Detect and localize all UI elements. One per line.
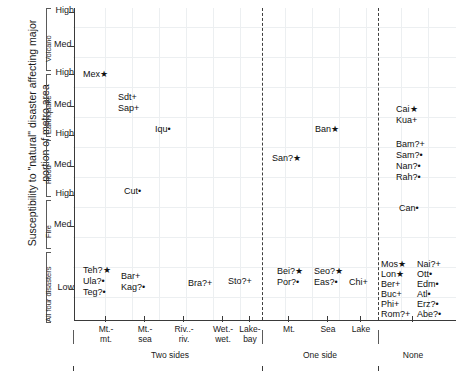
data-point-lon[interactable]: Lon★ [381,269,404,280]
y-group-bracket-all-four-top [46,252,51,253]
x-tick-mark [412,316,413,322]
x-tick-line1: Riv..- [174,324,193,334]
y-tick-mark [69,46,75,47]
data-point-seo[interactable]: Seo?★ [314,266,343,277]
x-tick-mark [249,316,250,322]
data-point-mos[interactable]: Mos★ [381,259,406,270]
data-point-can[interactable]: Can• [399,203,419,214]
y-tick-mark [69,12,75,13]
x-group-label-one-side: One side [280,350,360,360]
x-group-bracket-two-sides-right [262,330,263,344]
data-point-cut[interactable]: Cut• [124,186,141,197]
data-point-phi[interactable]: Phi+ [381,299,399,310]
x-group-label-none: None [378,350,448,360]
x-tick-mark [144,316,145,322]
gridline-v [159,8,160,320]
x-group-bracket-one-side-right [378,330,379,344]
data-point-bra[interactable]: Bra?+ [188,278,212,289]
data-point-edm[interactable]: Edm• [417,279,439,290]
y-tick-mark [69,166,75,167]
data-point-teh[interactable]: Teh?★ [83,265,111,276]
y-tick-label-0: High [34,5,74,15]
data-point-ban[interactable]: Ban★ [315,124,339,135]
y-tick-mark [69,289,75,290]
x-tick-mark [222,316,223,322]
x-tick-line1: Mt.- [99,324,114,334]
x-tick-mark [288,316,289,322]
y-tick-label-4: High [34,128,74,138]
scatter-chart: Susceptibility to "natural" disaster aff… [0,0,456,376]
gridline-v [186,8,187,320]
data-point-abe[interactable]: Abe?• [417,309,441,320]
x-tick-line2: mt. [100,334,112,344]
data-point-rom[interactable]: Rom?+ [381,309,410,320]
data-point-ott[interactable]: Ott• [417,269,432,280]
data-point-iqu[interactable]: Iqu• [155,124,171,135]
data-point-bam[interactable]: Bam?+ [396,139,425,150]
x-axis-line [74,320,456,321]
data-point-atl[interactable]: Atl• [417,289,431,300]
data-point-buc[interactable]: Buc+ [381,289,402,300]
x-tick-mark [105,316,106,322]
y-tick-mark [69,226,75,227]
data-point-mex[interactable]: Mex★ [83,69,108,80]
y-tick-label-2: High [34,67,74,77]
data-point-rah[interactable]: Rah?• [396,172,421,183]
data-point-chi[interactable]: Chi+ [349,277,368,288]
y-group-bracket-fire-bot [46,248,51,249]
data-point-ber[interactable]: Ber+ [381,279,400,290]
gridline-v [213,8,214,320]
y-group-label-all-four: All four disasters [44,267,53,322]
x-group-label-two-sides: Two sides [130,350,210,360]
x-group-bracket-two-sides-left [73,330,74,344]
data-point-teg[interactable]: Teg?• [83,287,106,298]
x-group-tick-hint [73,366,74,371]
gridline-v [240,8,241,320]
x-tick-mark [360,316,361,322]
data-point-ula[interactable]: Ula?• [83,276,105,287]
x-tick-line2: sea [138,334,152,344]
data-point-bar[interactable]: Bar+ [121,271,140,282]
gridline-h [73,27,456,28]
data-point-cai[interactable]: Cai★ [396,104,418,115]
data-point-sto[interactable]: Sto?+ [228,276,252,287]
y-tick-label-3: Med. [34,99,74,109]
y-axis-line [74,8,75,321]
x-tick-mark [327,316,328,322]
y-tick-mark [69,106,75,107]
data-point-sdt[interactable]: Sdt+ [118,92,137,103]
y-tick-label-8: Low [34,282,74,292]
y-tick-label-7: Med. [34,219,74,229]
y-group-bracket-flood-top [46,140,51,141]
separator-two-sides-one-side [262,8,263,320]
y-group-bracket-all-four-bot [46,322,51,323]
data-point-kag[interactable]: Kag?• [121,282,145,293]
x-tick-line1: Lake- [239,324,260,334]
data-point-bei[interactable]: Bei?★ [277,266,303,277]
data-point-sam[interactable]: Sam?• [396,150,423,161]
data-point-eas[interactable]: Eas?• [314,277,338,288]
data-point-san[interactable]: San?★ [272,153,301,164]
gridline-h [73,87,456,88]
y-tick-mark [69,135,75,136]
y-tick-mark [69,74,75,75]
y-tick-label-1: Med. [34,39,74,49]
x-group-tick-hint [262,366,263,371]
data-point-por[interactable]: Por?• [277,277,299,288]
y-tick-mark [69,195,75,196]
data-point-nai[interactable]: Nai?+ [417,259,441,270]
x-tick-line1: Mt.- [138,324,153,334]
gridline-h [73,57,456,58]
gridline-v [366,8,367,320]
y-tick-label-5: Med. [34,159,74,169]
gridline-h [73,237,456,238]
x-tick-line2: bay [243,334,257,344]
x-tick-line2: riv. [179,334,190,344]
data-point-nan[interactable]: Nan?• [396,161,421,172]
data-point-kua[interactable]: Kua+ [396,115,417,126]
data-point-erz[interactable]: Erz?• [417,299,439,310]
gridline-v [312,8,313,320]
x-group-tick-hint [378,366,379,371]
x-tick-mark [183,316,184,322]
data-point-sap[interactable]: Sap+ [118,103,139,114]
